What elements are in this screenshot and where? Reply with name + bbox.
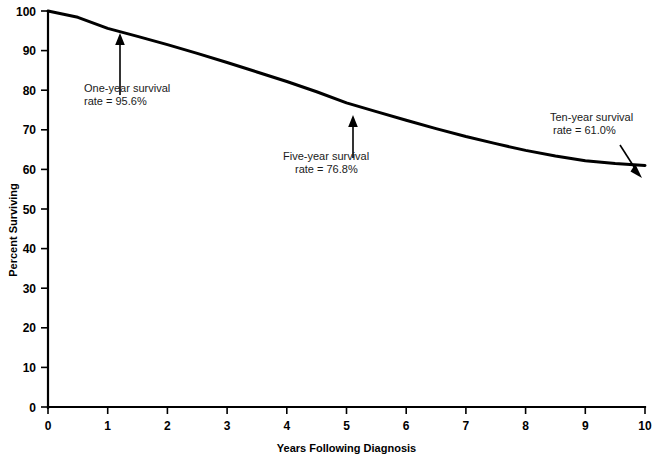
annotation-one-year: One-year survival rate = 95.6% <box>84 33 170 107</box>
y-tick-label: 40 <box>23 242 37 256</box>
annotation-ten-year-line2: rate = 61.0% <box>553 124 616 136</box>
y-tick-label: 20 <box>23 321 37 335</box>
x-axis-title: Years Following Diagnosis <box>277 442 416 454</box>
y-tick-label: 80 <box>23 84 37 98</box>
arrow-up-icon <box>348 115 358 127</box>
annotation-five-year-line1: Five-year survival <box>283 150 369 162</box>
y-axis-tick-labels: 100 90 80 70 60 50 40 30 20 10 0 <box>16 5 36 415</box>
y-axis-title: Percent Surviving <box>7 183 19 277</box>
arrow-up-icon <box>115 33 125 45</box>
x-tick-label: 4 <box>283 419 290 433</box>
x-tick-label: 1 <box>104 419 111 433</box>
y-tick-label: 30 <box>23 282 37 296</box>
survival-curve-chart: 100 90 80 70 60 50 40 30 20 10 0 <box>0 0 660 459</box>
x-tick-label: 6 <box>403 419 410 433</box>
y-tick-label: 100 <box>16 5 36 19</box>
x-tick-label: 0 <box>45 419 52 433</box>
y-tick-label: 10 <box>23 361 37 375</box>
annotation-one-year-line1: One-year survival <box>84 82 170 94</box>
chart-canvas: 100 90 80 70 60 50 40 30 20 10 0 <box>0 0 660 459</box>
x-tick-label: 7 <box>463 419 470 433</box>
x-tick-label: 2 <box>164 419 171 433</box>
x-tick-label: 10 <box>638 419 652 433</box>
annotation-ten-year-line1: Ten-year survival <box>550 111 633 123</box>
y-tick-label: 60 <box>23 163 37 177</box>
x-tick-label: 9 <box>582 419 589 433</box>
x-tick-label: 5 <box>343 419 350 433</box>
y-tick-label: 70 <box>23 123 37 137</box>
annotation-five-year: Five-year survival rate = 76.8% <box>283 115 369 175</box>
x-axis-tick-labels: 0 1 2 3 4 5 6 7 8 9 10 <box>45 419 652 433</box>
annotation-ten-year: Ten-year survival rate = 61.0% <box>550 111 642 178</box>
y-tick-label: 90 <box>23 44 37 58</box>
x-tick-label: 3 <box>224 419 231 433</box>
annotation-one-year-line2: rate = 95.6% <box>84 95 147 107</box>
x-tick-label: 8 <box>522 419 529 433</box>
annotation-five-year-line2: rate = 76.8% <box>295 163 358 175</box>
y-tick-label: 50 <box>23 203 37 217</box>
y-tick-label: 0 <box>29 401 36 415</box>
